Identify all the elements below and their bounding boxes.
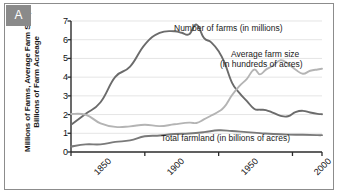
figure-panel-a: A Millions of Farms, Average Farm Size, … (0, 0, 338, 194)
annotation-number-of-farms: Number of farms (in millions) (174, 23, 283, 33)
annotation-average-farm-size-line1: Average farm size (231, 49, 299, 59)
annotation-total-farmland: Total farmland (in billions of acres) (161, 133, 290, 143)
annotation-average-farm-size-line2: (in hundreds of acres) (220, 59, 303, 69)
data-series-group (71, 25, 322, 147)
panel-label-badge: A (6, 5, 31, 26)
